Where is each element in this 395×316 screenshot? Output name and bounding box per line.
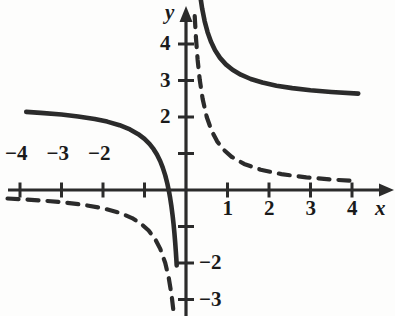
x-tick-label-2: 2 bbox=[264, 198, 275, 219]
x-tick-label-4-neg: −4 bbox=[5, 143, 27, 164]
x-tick-label-3-neg: −3 bbox=[47, 143, 69, 164]
x-tick-label-4: 4 bbox=[347, 198, 358, 219]
x-tick-label-1: 1 bbox=[223, 198, 234, 219]
curve-series-0-right-branch bbox=[195, 16, 356, 181]
y-axis-arrowhead bbox=[180, 6, 193, 22]
y-tick-label-4: 4 bbox=[160, 33, 171, 54]
y-tick-label-2-neg: −2 bbox=[199, 252, 221, 273]
x-tick-label-3: 3 bbox=[306, 198, 317, 219]
x-axis-arrowhead bbox=[379, 184, 394, 197]
y-tick-label-3-neg: −3 bbox=[199, 289, 221, 310]
graph-figure: −4−3−21234432−2−3yx bbox=[0, 0, 395, 316]
curve-series-0-left-branch bbox=[8, 199, 174, 312]
y-tick-label-2: 2 bbox=[160, 106, 171, 127]
curve-series-1-right-branch bbox=[194, 0, 358, 94]
y-tick-label-3: 3 bbox=[160, 70, 171, 91]
x-tick-label-2-neg: −2 bbox=[88, 143, 110, 164]
y-axis-label: y bbox=[165, 2, 174, 23]
x-axis-label: x bbox=[375, 198, 386, 219]
